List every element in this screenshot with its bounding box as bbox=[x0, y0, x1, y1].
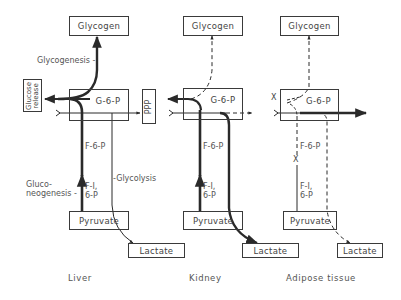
liver-f16p-label: F-I,6-P bbox=[85, 182, 98, 200]
liver-glucose-release-label: Glucoserelease bbox=[26, 82, 40, 110]
kidney-tissue-label: Kidney bbox=[189, 273, 222, 283]
adipose-f16p-label: F-I,6-P bbox=[300, 182, 313, 200]
liver-glucose-release-box: Glucoserelease bbox=[23, 79, 42, 112]
adipose-blocked-gluconeogenesis-mark: X bbox=[293, 155, 298, 164]
kidney-g6p-label: G-6-P bbox=[211, 95, 236, 105]
liver-glycolysis-label: -Glycolysis bbox=[113, 174, 156, 183]
adipose-glycogen-box: Glycogen bbox=[280, 16, 339, 36]
kidney-glycogen-box: Glycogen bbox=[183, 16, 243, 36]
liver-g6p-label: G-6-P bbox=[96, 96, 121, 106]
adipose-lactate-box: Lactate bbox=[337, 243, 383, 258]
liver-ppp-box: PPP bbox=[142, 89, 156, 124]
liver-lactate-box: Lactate bbox=[128, 243, 185, 258]
kidney-f16p-label: F-I,6-P bbox=[203, 182, 216, 200]
kidney-g6p-box: G-6-P bbox=[183, 88, 243, 120]
adipose-g6p-label: G-6-P bbox=[306, 96, 331, 106]
adipose-pyruvate-box: Pyruvate bbox=[283, 211, 337, 230]
liver-tissue-label: Liver bbox=[68, 273, 92, 283]
adipose-g6p-box: G-6-P bbox=[280, 89, 339, 121]
liver-pyruvate-box: Pyruvate bbox=[69, 211, 129, 230]
liver-g6p-box: G-6-P bbox=[69, 89, 129, 121]
liver-gluconeogenesis-label: Gluco-neogenesis - bbox=[26, 180, 77, 198]
adipose-f6p-label: F-6-P bbox=[300, 142, 320, 151]
kidney-lactate-box: Lactate bbox=[242, 243, 299, 258]
liver-glycogen-box: Glycogen bbox=[69, 16, 129, 36]
kidney-pyruvate-box: Pyruvate bbox=[183, 211, 243, 230]
adipose-tissue-label: Adipose tissue bbox=[286, 273, 356, 283]
liver-ppp-label: PPP bbox=[145, 99, 153, 113]
adipose-blocked-release-mark: X bbox=[271, 93, 276, 102]
liver-f6p-label: F-6-P bbox=[85, 142, 105, 151]
liver-glycogenesis-label: Glycogenesis - bbox=[37, 56, 95, 65]
kidney-f6p-label: F-6-P bbox=[203, 142, 223, 151]
